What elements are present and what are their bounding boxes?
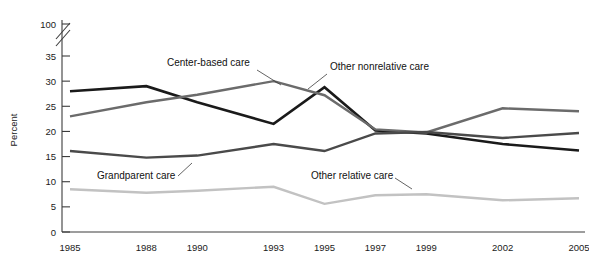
- line-chart-figure: 05101520253035100 1985198819901993199519…: [0, 0, 589, 266]
- x-tick-label: 1997: [365, 242, 386, 253]
- x-tick-label: 2002: [492, 242, 513, 253]
- y-tick-label: 35: [45, 51, 56, 62]
- x-tick-label: 1995: [314, 242, 335, 253]
- axis-break-slash-2: [56, 23, 70, 39]
- x-tick-label: 1993: [263, 242, 284, 253]
- y-tick-label: 5: [51, 201, 56, 212]
- series-label-other-relative-care: Other relative care: [311, 170, 394, 181]
- x-tick-label: 1990: [187, 242, 208, 253]
- y-tick-label: 25: [45, 101, 56, 112]
- y-tick-label: 20: [45, 126, 56, 137]
- chart-canvas: 05101520253035100 1985198819901993199519…: [0, 0, 589, 266]
- series-line-other-relative-care: [70, 187, 579, 204]
- x-tick-label: 1988: [136, 242, 157, 253]
- x-axis-ticks: 198519881990199319951997199920022005: [59, 242, 589, 253]
- series-label-center-based-care: Center-based care: [167, 57, 250, 68]
- annotation-leader-line: [178, 163, 192, 176]
- y-tick-label: 15: [45, 151, 56, 162]
- series-label-other-nonrelative-care: Other nonrelative care: [330, 61, 429, 72]
- series-label-grandparent-care: Grandparent care: [97, 170, 176, 181]
- y-tick-label: 0: [51, 227, 56, 238]
- x-tick-label: 1985: [59, 242, 80, 253]
- y-tick-label: 100: [40, 19, 56, 30]
- series-annotations: Center-based careOther nonrelative careG…: [97, 57, 429, 189]
- x-tick-label: 1999: [416, 242, 437, 253]
- annotation-leader-line: [395, 178, 412, 189]
- y-axis-break-icon: [56, 23, 70, 46]
- y-tick-label: 10: [45, 176, 56, 187]
- data-series-group: [70, 81, 579, 204]
- x-tick-label: 2005: [568, 242, 589, 253]
- y-axis-title: Percent: [8, 113, 19, 146]
- y-tick-label: 30: [45, 76, 56, 87]
- y-axis-ticks: 05101520253035100: [40, 19, 70, 238]
- axis-break-slash-1: [56, 30, 70, 46]
